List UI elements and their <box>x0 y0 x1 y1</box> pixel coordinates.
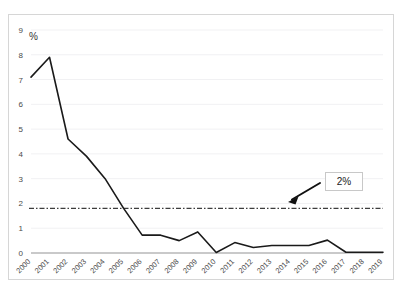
y-axis-tick-label: 6 <box>19 100 24 109</box>
y-axis-tick-labels: 0123456789 <box>19 26 24 258</box>
y-axis-tick-label: 1 <box>19 224 24 233</box>
threshold-annotation-box: 2% <box>325 172 363 191</box>
y-axis-tick-label: 0 <box>19 249 24 258</box>
x-axis-tick-label: 2002 <box>51 257 69 275</box>
x-axis-tick-label: 2000 <box>14 257 32 275</box>
x-axis-tick-label: 2012 <box>237 257 255 275</box>
x-axis-tick-label: 2014 <box>274 257 292 275</box>
x-axis-tick-label: 2007 <box>144 257 162 275</box>
x-axis-tick-labels: 2000200120022003200420052006200720082009… <box>14 257 384 275</box>
x-axis-tick-label: 2006 <box>125 257 143 275</box>
x-axis-tick-label: 2017 <box>329 257 347 275</box>
line-chart-figure: 0123456789 20002001200220032004200520062… <box>0 0 404 293</box>
y-axis-tick-label: 4 <box>19 150 24 159</box>
x-axis-tick-label: 2016 <box>311 257 329 275</box>
annotation-arrow-shaft <box>292 183 320 200</box>
x-axis-tick-label: 2004 <box>88 257 106 275</box>
y-axis-unit-label: % <box>29 31 38 42</box>
threshold-annotation-label: 2% <box>337 176 351 187</box>
y-axis-tick-label: 3 <box>19 175 24 184</box>
x-axis-tick-label: 2018 <box>348 257 366 275</box>
data-series-polyline <box>31 57 383 252</box>
y-axis-tick-label: 2 <box>19 199 24 208</box>
x-axis-tick-label: 2008 <box>162 257 180 275</box>
data-series-line <box>31 57 383 252</box>
x-axis-tick-label: 2009 <box>181 257 199 275</box>
x-axis-tick-label: 2005 <box>107 257 125 275</box>
y-axis-tick-label: 7 <box>19 76 24 85</box>
x-axis-tick-label: 2003 <box>70 257 88 275</box>
x-axis-tick-label: 2001 <box>33 257 51 275</box>
y-axis-tick-label: 9 <box>19 26 24 35</box>
chart-canvas: 0123456789 20002001200220032004200520062… <box>0 0 404 293</box>
x-axis-tick-label: 2015 <box>292 257 310 275</box>
x-axis-tick-label: 2011 <box>218 257 236 275</box>
x-axis-tick-label: 2013 <box>255 257 273 275</box>
x-axis-tick-label: 2019 <box>366 257 384 275</box>
gridlines <box>31 30 383 253</box>
x-axis-tick-label: 2010 <box>200 257 218 275</box>
y-axis-tick-label: 5 <box>19 125 24 134</box>
annotation-arrow-icon <box>288 183 320 205</box>
y-axis-tick-label: 8 <box>19 51 24 60</box>
